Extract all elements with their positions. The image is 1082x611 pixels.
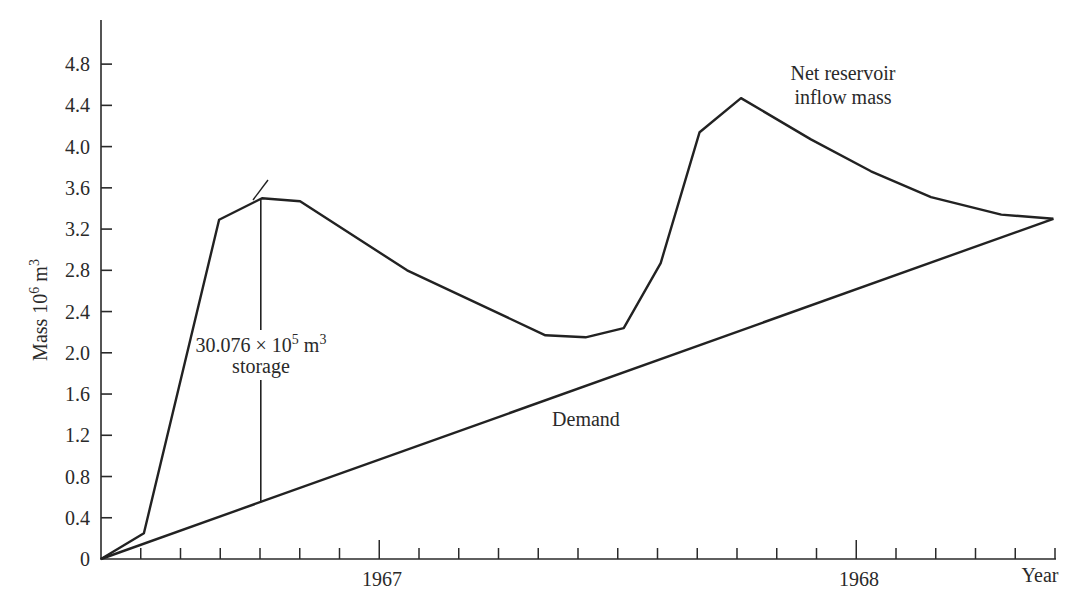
demand-line	[101, 219, 1053, 559]
x-ticks	[141, 540, 1055, 559]
y-tick-label: 3.6	[65, 177, 90, 199]
y-tick-label: 4.8	[65, 53, 90, 75]
y-tick-label: 0	[80, 548, 90, 570]
storage-exp: 5	[292, 332, 299, 347]
storage-span-marker	[253, 180, 268, 200]
y-tick-label: 4.4	[65, 94, 90, 116]
y-axis-title-exp1: 6	[27, 287, 42, 294]
y-axis-title-exp2: 3	[27, 259, 42, 266]
inflow-label-line2: inflow mass	[794, 86, 891, 108]
y-tick-labels: 00.40.81.21.62.02.42.83.23.64.04.44.8	[65, 53, 90, 570]
y-axis-title-main: Mass 10	[29, 294, 51, 361]
inflow-mass-curve	[101, 98, 1053, 559]
x-label-1967: 1967	[362, 568, 402, 590]
y-axis-title-unit: m	[29, 266, 51, 287]
y-ticks	[101, 64, 112, 518]
y-tick-label: 1.2	[65, 424, 90, 446]
y-tick-label: 1.6	[65, 383, 90, 405]
y-tick-label: 0.8	[65, 466, 90, 488]
svg-text:Mass 106 m3: Mass 106 m3	[27, 259, 51, 361]
demand-label: Demand	[552, 408, 620, 430]
y-tick-label: 2.8	[65, 259, 90, 281]
y-tick-label: 3.2	[65, 218, 90, 240]
y-axis-title: Mass 106 m3	[27, 259, 51, 361]
y-tick-label: 4.0	[65, 136, 90, 158]
x-label-1968: 1968	[839, 568, 879, 590]
mass-curve-chart: 00.40.81.21.62.02.42.83.23.64.04.44.8 19…	[0, 0, 1082, 611]
storage-value: 30.076 × 10	[196, 334, 292, 356]
y-tick-label: 0.4	[65, 507, 90, 529]
storage-unit: m	[299, 334, 320, 356]
x-axis-title: Year	[1022, 564, 1059, 586]
inflow-label-line1: Net reservoir	[791, 62, 896, 84]
y-tick-label: 2.4	[65, 301, 90, 323]
storage-annotation-line1: 30.076 × 105 m3	[196, 332, 327, 356]
y-tick-label: 2.0	[65, 342, 90, 364]
storage-annotation-line2: storage	[232, 355, 290, 378]
storage-unit-exp: 3	[319, 332, 326, 347]
